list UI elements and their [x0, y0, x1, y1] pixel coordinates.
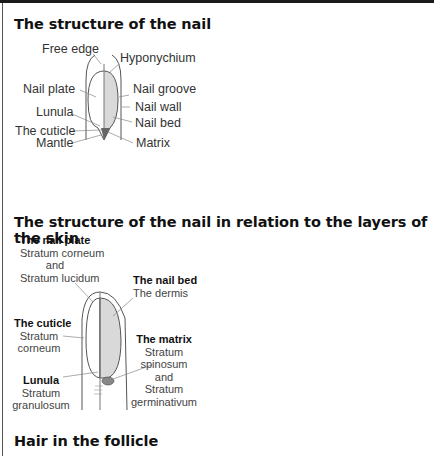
label-mantle: Mantle [36, 136, 74, 151]
label-nail-bed: Nail bed [135, 116, 181, 131]
section-title-hair-follicle: Hair in the follicle [14, 433, 158, 449]
label-free-edge: Free edge [42, 42, 99, 57]
label-cuticle-layers: The cuticle Stratum corneum [14, 317, 64, 355]
label-nail-plate-layers: The nail plate Stratum corneum and Strat… [20, 234, 90, 284]
label-matrix-layers: The matrix Stratum spinosum and Stratum … [130, 333, 198, 408]
label-hyponychium: Hyponychium [120, 51, 196, 66]
label-nail-plate: Nail plate [23, 82, 75, 97]
label-heading: The nail plate [20, 234, 90, 247]
label-nail-wall: Nail wall [135, 100, 182, 115]
label-matrix: Matrix [136, 136, 170, 151]
label-lunula-layers: Lunula Stratum granulosum [12, 374, 70, 412]
label-nail-bed-layers: The nail bed The dermis [133, 274, 197, 299]
label-lunula: Lunula [36, 105, 74, 120]
label-nail-groove: Nail groove [133, 82, 196, 97]
